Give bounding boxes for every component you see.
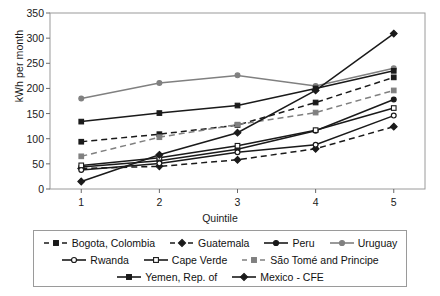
legend-swatch-icon [231,271,257,283]
legend-item-label: Peru [292,237,314,249]
legend-item-label: Uruguay [358,237,398,249]
legend-item-bogota-colombia[interactable]: Bogota, Colombia [43,237,155,249]
legend-swatch-icon [61,254,87,266]
data-point-marker [79,96,84,101]
data-point-marker [313,128,318,133]
data-point-marker [179,239,186,246]
data-point-marker [235,122,240,127]
data-point-marker [157,80,162,85]
data-point-marker [79,139,84,144]
x-tick-label: 3 [235,196,241,208]
x-tick-label: 5 [391,196,397,208]
legend-item-yemen-rep-of[interactable]: Yemen, Rep. of [116,271,217,283]
legend-row: Yemen, Rep. ofMexico - CFE [34,268,406,285]
legend-item-label: São Tomé and Principe [270,254,378,266]
legend-row: RwandaCape VerdeSão Tomé and Principe [34,251,406,268]
legend-swatch-icon [241,254,267,266]
data-point-marker [235,103,240,108]
x-axis-tick-labels: 12345 [0,196,440,212]
data-point-marker [235,150,240,155]
legend-swatch-icon [43,237,69,249]
data-point-marker [234,156,241,163]
chart-legend: Bogota, ColombiaGuatemalaPeruUruguayRwan… [33,230,407,287]
legend-item-peru[interactable]: Peru [263,237,314,249]
data-point-marker [157,161,162,166]
legend-swatch-icon [143,254,169,266]
x-tick-label: 4 [313,196,319,208]
data-point-marker [252,257,257,262]
data-point-marker [313,100,318,105]
data-point-marker [235,143,240,148]
data-point-marker [79,154,84,159]
legend-swatch-icon [116,271,142,283]
data-point-marker [78,178,85,185]
legend-item-label: Mexico - CFE [260,271,324,283]
legend-item-label: Guatemala [198,237,249,249]
x-axis-label: Quintile [0,212,440,224]
legend-item-mexico-cfe[interactable]: Mexico - CFE [231,271,324,283]
legend-item-label: Rwanda [90,254,129,266]
legend-item-label: Yemen, Rep. of [145,271,217,283]
data-point-marker [72,257,77,262]
x-tick-label: 1 [78,196,84,208]
data-point-marker [157,111,162,116]
data-point-marker [391,97,396,102]
legend-item-uruguay[interactable]: Uruguay [329,237,398,249]
data-point-marker [391,69,396,74]
legend-item-guatemala[interactable]: Guatemala [169,237,249,249]
legend-item-cape-verde[interactable]: Cape Verde [143,254,227,266]
data-point-marker [235,73,240,78]
data-point-marker [391,75,396,80]
legend-swatch-icon [263,237,289,249]
data-point-marker [390,123,397,130]
x-tick-label: 2 [156,196,162,208]
data-point-marker [153,257,158,262]
data-point-marker [274,240,279,245]
data-point-marker [391,113,396,118]
data-point-marker [391,88,396,93]
data-point-marker [313,142,318,147]
legend-item-s-o-tom-and-principe[interactable]: São Tomé and Principe [241,254,378,266]
series-uruguay [79,66,396,101]
chart-container: kWh per month 050100150200250300350 1234… [0,0,440,296]
data-point-marker [53,240,58,245]
legend-item-label: Bogota, Colombia [72,237,155,249]
legend-swatch-icon [169,237,195,249]
data-point-marker [127,274,132,279]
data-point-marker [339,240,344,245]
data-point-marker [79,119,84,124]
data-point-marker [234,129,241,136]
data-point-marker [313,110,318,115]
legend-row: Bogota, ColombiaGuatemalaPeruUruguay [34,234,406,251]
data-point-marker [157,135,162,140]
data-point-marker [391,106,396,111]
data-point-marker [241,273,248,280]
data-point-marker [79,163,84,168]
legend-item-label: Cape Verde [172,254,227,266]
legend-swatch-icon [329,237,355,249]
legend-item-rwanda[interactable]: Rwanda [61,254,129,266]
